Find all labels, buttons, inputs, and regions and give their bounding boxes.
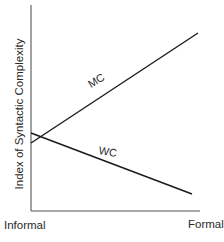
y-axis-label: Index of Syntactic Complexity	[13, 39, 25, 190]
x-tick-formal: Formal	[188, 218, 224, 230]
series-line-wc	[31, 133, 192, 194]
x-tick-informal: Informal	[4, 219, 46, 231]
series-line-mc	[31, 33, 198, 143]
line-chart	[0, 0, 224, 242]
